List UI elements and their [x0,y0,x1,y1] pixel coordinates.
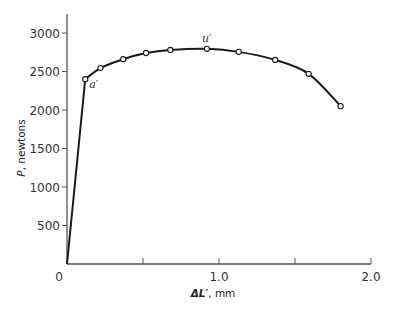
data-point [121,57,126,62]
data-point [143,50,148,55]
y-tick-label: 2000 [29,104,60,118]
y-axis-title: P, newtons [15,119,27,176]
y-tick-label: 1000 [29,181,60,195]
point-annotation: u′ [202,32,212,45]
y-tick-label: 1500 [29,142,60,156]
data-point [204,46,209,51]
data-point [168,47,173,52]
y-tick-label: 2500 [29,65,60,79]
series-line [67,49,341,264]
x-axis-symbol: ΔL′ [190,287,209,299]
x-axis-unit: , mm [208,287,235,299]
load-elongation-chart: 500100015002000250030000 1.02.0 P, newto… [0,0,395,312]
x-ticks: 1.02.0 [143,258,381,284]
axes [67,14,371,264]
y-tick-label: 500 [37,219,60,233]
y-axis-unit: , newtons [15,119,27,170]
origin-label: 0 [55,270,63,284]
x-axis-title: ΔL′, mm [190,287,236,299]
annotations: a′u′ [89,32,212,91]
data-point [236,49,241,54]
point-annotation: a′ [89,78,99,91]
x-tick-label: 2.0 [361,270,380,284]
data-point [273,57,278,62]
x-tick-label: 1.0 [209,270,228,284]
y-tick-label: 3000 [29,27,60,41]
data-point [98,65,103,70]
series-group [67,46,343,264]
data-point [83,77,88,82]
data-point [306,71,311,76]
data-point [338,104,343,109]
y-ticks: 500100015002000250030000 [29,27,67,285]
